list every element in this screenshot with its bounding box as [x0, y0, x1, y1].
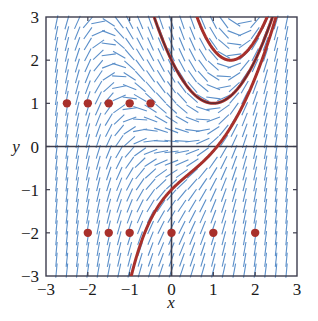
data-point — [209, 229, 217, 237]
data-point — [84, 229, 92, 237]
slope-field-plot: −3−2−10123−3−2−10123 x y — [0, 0, 318, 321]
plot-background — [0, 0, 318, 321]
y-tick-label: −3 — [21, 267, 39, 286]
data-point — [105, 229, 113, 237]
data-point — [63, 99, 71, 107]
x-tick-label: 1 — [209, 280, 218, 299]
y-tick-label: 3 — [31, 8, 40, 27]
x-tick-label: −2 — [79, 280, 97, 299]
data-point — [105, 99, 113, 107]
y-tick-label: 1 — [31, 94, 40, 113]
y-tick-label: 0 — [31, 138, 40, 157]
figure-container: −3−2−10123−3−2−10123 x y — [0, 0, 318, 321]
x-tick-label: 3 — [293, 280, 302, 299]
x-tick-label: −3 — [37, 280, 55, 299]
y-tick-label: 2 — [31, 51, 40, 70]
y-tick-label: −2 — [21, 224, 39, 243]
data-point — [146, 99, 154, 107]
y-tick-label: −1 — [21, 181, 39, 200]
data-point — [125, 229, 133, 237]
data-point — [167, 229, 175, 237]
data-point — [84, 99, 92, 107]
data-point — [125, 99, 133, 107]
x-tick-label: 2 — [251, 280, 260, 299]
x-tick-label: −1 — [121, 280, 139, 299]
data-point — [251, 229, 259, 237]
y-axis-label: y — [10, 137, 20, 156]
x-axis-label: x — [166, 293, 175, 312]
